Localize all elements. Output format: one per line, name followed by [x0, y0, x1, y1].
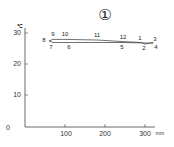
month-label-2: 2: [142, 45, 146, 51]
x-axis-unit: mm: [156, 130, 164, 136]
y-tick-30: 30: [13, 29, 21, 36]
month-label-9: 9: [51, 31, 55, 37]
climograph-chart: ① ℃ 30 20 10 0 100 200 300 mm 1234567891…: [0, 0, 174, 147]
x-tick-300: 300: [139, 130, 151, 137]
x-tick-200: 200: [99, 130, 111, 137]
chart-title: ①: [98, 6, 111, 24]
month-label-1: 1: [138, 35, 142, 41]
month-label-3: 3: [153, 36, 157, 42]
y-tick-20: 20: [13, 60, 21, 67]
y-tick-0: 0: [6, 124, 10, 131]
month-label-7: 7: [49, 44, 53, 50]
y-tick-10: 10: [13, 91, 21, 98]
point-labels: 123456789101112: [42, 31, 158, 51]
x-ticks: 100 200 300 mm: [60, 124, 164, 137]
month-label-4: 4: [154, 44, 158, 50]
month-label-10: 10: [62, 31, 69, 37]
x-tick-100: 100: [60, 130, 72, 137]
month-label-11: 11: [94, 32, 101, 38]
month-label-5: 5: [120, 44, 124, 50]
month-label-12: 12: [120, 34, 127, 40]
month-label-6: 6: [67, 44, 71, 50]
month-label-8: 8: [42, 37, 46, 43]
